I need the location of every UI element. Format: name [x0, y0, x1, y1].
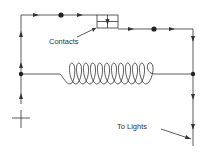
arrow-right-icon: [128, 27, 134, 31]
arrow-down-icon: [191, 36, 195, 42]
contacts-label: Contacts: [49, 37, 79, 46]
arrow-up-icon: [19, 31, 23, 37]
arrow-up-icon: [19, 62, 23, 68]
arrow-down-icon: [191, 94, 195, 100]
arrow-right-icon: [169, 27, 175, 31]
flow-arrows: [19, 13, 195, 139]
arrow-right-icon: [33, 13, 39, 17]
junction-dot: [151, 26, 156, 31]
to-lights-label: To Lights: [117, 122, 147, 131]
junction-dot: [58, 12, 63, 17]
circuit-diagram: [0, 0, 205, 155]
to-lights-arrowhead-icon: [185, 135, 191, 139]
junction-dot: [19, 72, 23, 76]
arrow-down-icon: [191, 124, 195, 130]
junction-dot: [191, 72, 195, 76]
positive-terminal-icon: [12, 110, 30, 128]
arrow-up-icon: [19, 93, 23, 99]
arrow-right-icon: [77, 13, 83, 17]
contacts-arrowhead-icon: [92, 28, 96, 32]
arrow-down-icon: [106, 19, 110, 25]
coil-icon: [60, 63, 155, 84]
